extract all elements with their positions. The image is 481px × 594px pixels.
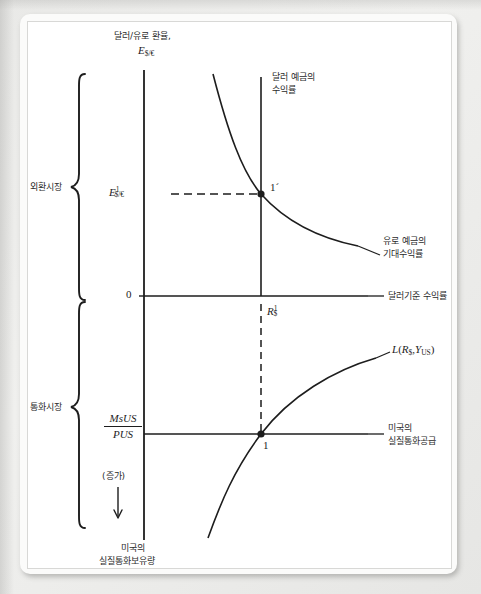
dollar-rate-of-return-label: 달러기준 수익률 [388, 290, 447, 303]
euro-return-leader-line [358, 246, 380, 255]
dollar-deposit-return-label-line1: 달러 예금의 [272, 71, 315, 84]
us-real-money-holdings-label-line2: 실질통화보유량 [99, 555, 155, 568]
e1-axis-label: E1$/€ [109, 185, 124, 199]
msupply-num-sub: US [123, 412, 136, 424]
increase-label: (증가) [102, 470, 125, 483]
msupply-numerator: MsUS [104, 412, 142, 425]
fx-equilibrium-label: 1´ [270, 181, 279, 193]
money-market-bracket-label: 통화시장 [30, 401, 62, 414]
dollar-deposit-return-label-line2: 수익률 [272, 84, 296, 97]
e1-sub: $/€ [114, 190, 124, 199]
ld-close: ) [431, 343, 435, 355]
fx-market-bracket [71, 74, 85, 300]
money-demand-curve-label: L(R$,YUS) [392, 343, 434, 357]
fx-market-bracket-label: 외환시장 [30, 181, 62, 194]
msupply-den-base: P [113, 428, 120, 440]
figure-panel: 달러/유로 환율, E$/€ 달러 예금의 수익률 E1$/€ 1´ 유로 예금… [27, 21, 452, 569]
figure-page: 달러/유로 환율, E$/€ 달러 예금의 수익률 E1$/€ 1´ 유로 예금… [0, 0, 481, 594]
msupply-den-sub: US [120, 428, 133, 440]
real-money-supply-fraction: MsUS PUS [104, 412, 142, 441]
money-demand-leader-line [376, 352, 390, 358]
r1-sub: $ [273, 309, 277, 318]
ld-arg1-base: R [402, 343, 409, 355]
euro-deposit-return-label-line2: 기대수익률 [383, 248, 423, 261]
euro-deposit-return-curve [213, 74, 358, 246]
money-equilibrium-point [257, 430, 264, 437]
us-real-money-supply-label-line2: 실질통화공급 [388, 435, 436, 448]
msupply-num-base: M [110, 412, 119, 424]
us-real-money-holdings-label-line1: 미국의 [121, 542, 145, 555]
fraction-bar [104, 426, 142, 427]
ld-arg2-sub: US [421, 348, 431, 357]
euro-deposit-return-label-line1: 유로 예금의 [383, 235, 426, 248]
fx-equilibrium-point [257, 190, 264, 197]
r1-axis-label: R1$ [267, 304, 277, 318]
money-demand-curve [208, 358, 376, 538]
y-axis-symbol-sub: $/€ [145, 49, 155, 58]
us-real-money-supply-label-line1: 미국의 [388, 422, 412, 435]
money-equilibrium-label: 1 [263, 439, 269, 451]
y-axis-title-line1: 달러/유로 환율, [114, 30, 171, 43]
msupply-denominator: PUS [104, 428, 142, 441]
origin-label: 0 [126, 288, 132, 300]
y-axis-symbol: E$/€ [138, 44, 154, 58]
money-market-bracket [71, 302, 85, 528]
y-axis-symbol-base: E [138, 44, 145, 56]
